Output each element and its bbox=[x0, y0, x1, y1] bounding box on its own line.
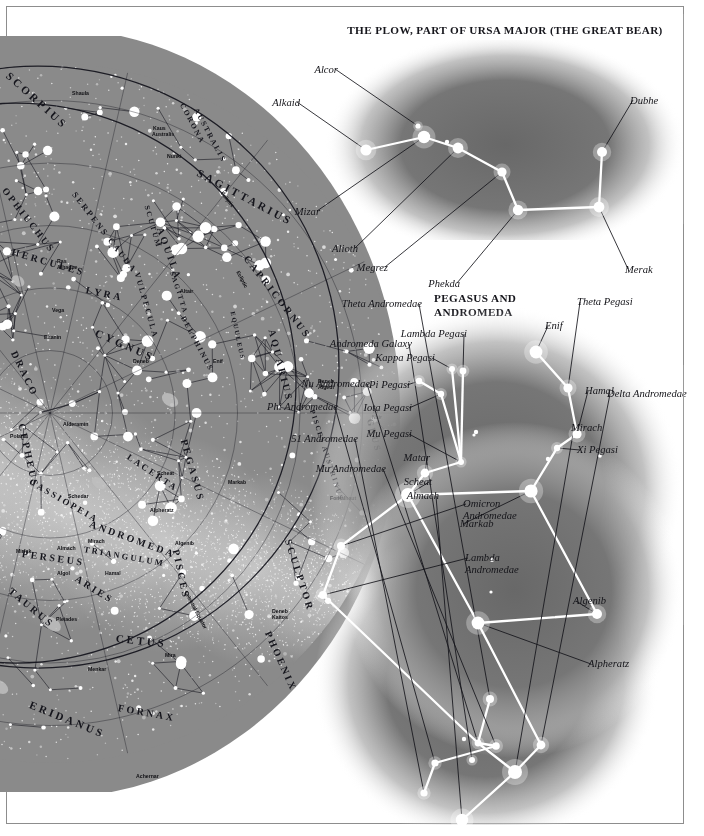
star-dot bbox=[431, 759, 438, 766]
star-dot bbox=[438, 391, 444, 397]
plow-title: THE PLOW, PART OF URSA MAJOR (THE GREAT … bbox=[330, 24, 680, 36]
star-label: Lambda Andromedae bbox=[465, 552, 553, 575]
label-leader-line bbox=[341, 504, 466, 546]
star-dot bbox=[475, 740, 482, 747]
star-label: Delta Andromedae bbox=[607, 388, 695, 400]
rule-lower-right bbox=[683, 365, 684, 625]
plow-diagram: AlkaidMizarAlcorAliothMegrezPhekdaMerakD… bbox=[300, 40, 704, 240]
star-dot bbox=[472, 433, 475, 436]
star-label: Megrez bbox=[357, 262, 388, 274]
star-label: Mizar bbox=[295, 206, 320, 218]
star-dot bbox=[492, 742, 500, 750]
star-label: Iota Pegasi bbox=[363, 402, 412, 414]
star-label: Mu Andromedae bbox=[316, 463, 386, 475]
star-label: Almach bbox=[407, 490, 439, 502]
star-dot bbox=[594, 202, 605, 213]
star-label: Theta Andromedae bbox=[334, 298, 422, 310]
constellation-link bbox=[478, 614, 597, 623]
pegasus-andromeda-diagram: Theta PegasiEnifHamalXi PegasiMarkabAlge… bbox=[300, 280, 704, 825]
star-dot bbox=[513, 205, 523, 215]
star-dot bbox=[460, 368, 467, 375]
star-label: Mirach bbox=[571, 422, 602, 434]
constellation-link bbox=[323, 546, 341, 595]
star-label: Andromeda Galaxy bbox=[324, 338, 412, 350]
star-label: Omicron Andromedae bbox=[463, 498, 551, 521]
star-label: Kappa Pegasi bbox=[375, 352, 435, 364]
star-label: Xi Pegasi bbox=[577, 444, 618, 456]
star-label: Enif bbox=[545, 320, 563, 332]
constellation-link bbox=[518, 207, 599, 210]
star-label: Pi Pegasi bbox=[369, 379, 410, 391]
constellation-link bbox=[461, 371, 463, 462]
star-label: Theta Pegasi bbox=[577, 296, 633, 308]
label-leader-line bbox=[335, 69, 418, 126]
star-dot bbox=[537, 741, 546, 750]
star-dot bbox=[554, 445, 560, 451]
star-dot bbox=[418, 131, 430, 143]
star-label: Matar bbox=[404, 452, 430, 464]
star-dot bbox=[469, 757, 475, 763]
star-dot bbox=[597, 147, 607, 157]
star-dot bbox=[415, 123, 420, 128]
star-dot bbox=[530, 346, 543, 359]
star-dot bbox=[546, 457, 550, 461]
star-dot bbox=[472, 617, 485, 630]
plow-starfield bbox=[300, 40, 704, 240]
star-dot bbox=[458, 459, 464, 465]
label-leader-line bbox=[436, 496, 462, 820]
star-dot bbox=[524, 484, 537, 497]
star-dot bbox=[489, 590, 492, 593]
star-dot bbox=[360, 144, 371, 155]
rule-upper-right bbox=[683, 14, 684, 224]
star-dot bbox=[416, 378, 422, 384]
star-dot bbox=[453, 143, 464, 154]
star-label: Nu Andromedae bbox=[301, 378, 370, 390]
star-label: Dubhe bbox=[630, 95, 658, 107]
constellation-link bbox=[435, 746, 496, 763]
star-dot bbox=[337, 542, 345, 550]
star-dot bbox=[497, 167, 506, 176]
star-dot bbox=[445, 140, 449, 144]
star-dot bbox=[420, 789, 427, 796]
star-label: Scheat bbox=[404, 476, 432, 488]
star-label: Alpheratz bbox=[588, 658, 629, 670]
star-label: Phi Andromedae bbox=[267, 401, 338, 413]
star-dot bbox=[592, 609, 602, 619]
label-leader-line bbox=[297, 102, 366, 150]
star-label: 51 Andromedae bbox=[291, 433, 358, 445]
star-dot bbox=[456, 814, 468, 826]
star-dot bbox=[462, 737, 466, 741]
star-dot bbox=[486, 695, 494, 703]
star-dot bbox=[563, 383, 572, 392]
star-dot bbox=[508, 765, 522, 779]
label-leader-line bbox=[355, 148, 458, 248]
label-leader-line bbox=[515, 428, 574, 772]
star-label: Alioth bbox=[332, 243, 358, 255]
star-label: Alcor bbox=[314, 64, 338, 76]
star-label: Merak bbox=[625, 264, 653, 276]
star-label: Algenib bbox=[573, 595, 606, 607]
star-dot bbox=[319, 591, 327, 599]
star-label: Mu Pegasi bbox=[366, 428, 412, 440]
star-dot bbox=[449, 366, 455, 372]
star-label: Alkaid bbox=[272, 97, 300, 109]
label-leader-line bbox=[568, 302, 580, 388]
